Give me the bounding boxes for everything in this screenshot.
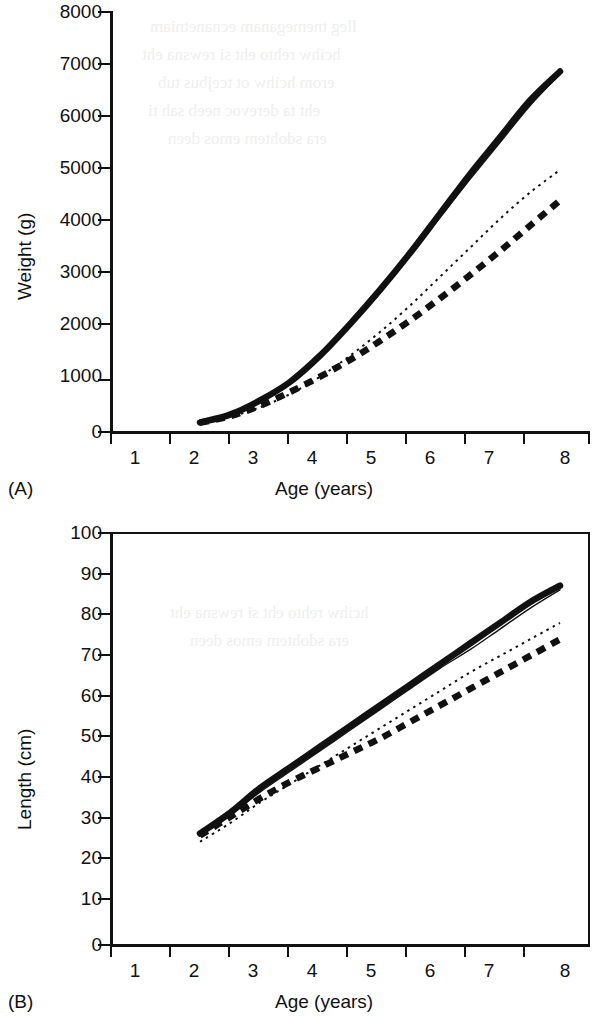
panel-b-length-chart: Length (cm) 100 90 80 70 60 50 40 30 20 …: [0, 512, 610, 1030]
curve-fine-dotted: [200, 170, 560, 423]
panel-a-curves: [0, 0, 610, 512]
panel-a-weight-chart: Weight (g) 8000 7000 6000 5000 4000 3000…: [0, 0, 610, 512]
curve-fine-dotted: [200, 623, 560, 842]
panel-b-curves: [0, 512, 610, 1030]
curve-thick-dashed: [200, 200, 560, 422]
